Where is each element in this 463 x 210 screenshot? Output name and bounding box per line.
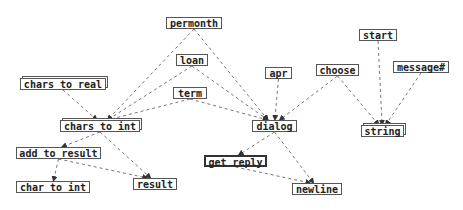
edge-choose-to-dialog (280, 76, 338, 120)
edge-apr-to-dialog (275, 79, 279, 120)
node-add-to-result[interactable]: add to result (16, 147, 101, 159)
node-message[interactable]: message# (393, 61, 449, 73)
edge-add-to-result-to-result (59, 159, 148, 178)
edge-message-to-string (386, 73, 421, 125)
node-chars-to-real[interactable]: chars to real (20, 78, 106, 90)
node-result[interactable]: result (133, 178, 177, 190)
node-get-reply[interactable]: get reply (204, 155, 267, 167)
node-permonth[interactable]: permonth (166, 17, 222, 29)
node-apr[interactable]: apr (265, 67, 292, 79)
node-char-to-int[interactable]: char to int (16, 181, 90, 193)
dependency-diagram: permonthloanchars to realtermaprchoosest… (0, 0, 463, 210)
node-term[interactable]: term (173, 87, 207, 99)
edge-chars-to-int-to-result (100, 132, 151, 178)
edge-chars-to-int-to-add-to-result (62, 132, 100, 147)
edge-term-to-chars-to-int (107, 99, 190, 120)
edge-dialog-to-newline (275, 132, 314, 183)
node-newline[interactable]: newline (292, 183, 342, 195)
edge-dialog-to-get-reply (239, 132, 275, 155)
edge-get-reply-to-newline (236, 167, 311, 183)
node-string[interactable]: string (361, 125, 404, 137)
node-start[interactable]: start (359, 29, 397, 41)
edge-permonth-to-chars-to-int (108, 29, 194, 120)
node-loan[interactable]: loan (176, 54, 208, 66)
edge-start-to-string (378, 41, 382, 125)
edge-choose-to-string (338, 76, 379, 125)
edge-add-to-result-to-char-to-int (53, 159, 58, 181)
node-choose[interactable]: choose (316, 64, 359, 76)
node-dialog[interactable]: dialog (252, 120, 297, 132)
edge-term-to-dialog (190, 99, 268, 120)
edge-chars-to-real-to-chars-to-int (63, 90, 97, 120)
edge-permonth-to-dialog (194, 29, 268, 120)
node-chars-to-int[interactable]: chars to int (60, 120, 140, 132)
